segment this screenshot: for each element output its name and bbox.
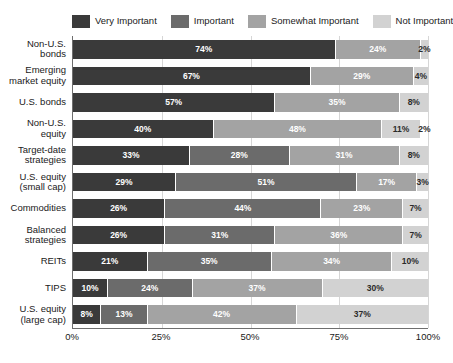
category-label: U.S. bonds [0, 97, 66, 108]
bar-segment[interactable]: 33% [73, 146, 190, 165]
x-axis-tick-label: 50% [240, 331, 259, 342]
bar-segment-value-label: 57% [165, 98, 182, 107]
legend-item[interactable]: Not Important [373, 15, 453, 28]
bar-row[interactable]: 33%28%31%8% [73, 146, 428, 165]
category-axis-labels: Non-U.S.bondsEmergingmarket equityU.S. b… [0, 36, 70, 328]
bar-segment[interactable]: 11% [382, 120, 421, 139]
bar-segment[interactable]: 51% [176, 173, 357, 192]
bar-segment[interactable]: 31% [290, 146, 400, 165]
bar-segment[interactable]: 35% [148, 252, 272, 271]
bar-segment[interactable]: 8% [73, 305, 101, 324]
legend-item[interactable]: Important [171, 15, 234, 28]
bar-segment[interactable]: 34% [272, 252, 393, 271]
bar-segment-value-label: 74% [195, 45, 212, 54]
bar-segment[interactable]: 36% [275, 226, 403, 245]
bar-segment[interactable]: 37% [193, 279, 323, 298]
bar-segment-value-label: 37% [249, 284, 266, 293]
bar-segment-value-label: 8% [408, 151, 420, 160]
bar-segment[interactable]: 40% [73, 120, 214, 139]
bar-segment-value-label: 21% [101, 257, 118, 266]
bar-row[interactable]: 21%35%34%10% [73, 252, 428, 271]
category-label: Commodities [0, 203, 66, 214]
bar-segment-value-label: 31% [211, 231, 228, 240]
bar-row[interactable]: 8%13%42%37% [73, 305, 428, 324]
bar-segment[interactable]: 23% [321, 199, 403, 218]
bar-segment[interactable]: 10% [73, 279, 108, 298]
bar-segment[interactable]: 17% [357, 173, 417, 192]
category-label: Emergingmarket equity [0, 65, 66, 86]
bar-segment[interactable]: 35% [275, 93, 399, 112]
bar-segment-value-label: 36% [330, 231, 347, 240]
bar-segment-value-label: 3% [417, 178, 429, 187]
bar-segment-value-label: 26% [110, 204, 127, 213]
bar-segment[interactable]: 7% [403, 226, 428, 245]
category-label: Non-U.S.equity [0, 118, 66, 139]
bar-segment[interactable]: 29% [311, 67, 414, 86]
bar-row[interactable]: 40%48%11%2% [73, 120, 428, 139]
bar-segment[interactable]: 13% [101, 305, 147, 324]
x-axis-tick-label: 75% [329, 331, 348, 342]
category-label-line: TIPS [0, 283, 66, 294]
bar-segment[interactable]: 3% [417, 173, 428, 192]
legend-item[interactable]: Somewhat Important [248, 15, 359, 28]
bar-segment[interactable]: 8% [400, 146, 428, 165]
bar-segment[interactable]: 28% [190, 146, 289, 165]
bar-segment[interactable]: 26% [73, 226, 165, 245]
x-axis-tick-labels: 0%25%50%75%100% [0, 331, 439, 347]
category-label-line: strategies [0, 235, 66, 246]
bar-row[interactable]: 10%24%37%30% [73, 279, 428, 298]
bar-segment-value-label: 13% [115, 310, 132, 319]
bar-segment[interactable]: 48% [214, 120, 383, 139]
legend-item[interactable]: Very Important [72, 15, 157, 28]
bar-segment[interactable]: 30% [323, 279, 428, 298]
category-label-line: REITs [0, 256, 66, 267]
bar-segment-value-label: 26% [110, 231, 127, 240]
bar-segment-value-label: 31% [336, 151, 353, 160]
bar-segment-value-label: 44% [234, 204, 251, 213]
bar-segment-value-label: 67% [183, 72, 200, 81]
bar-segment[interactable]: 42% [148, 305, 297, 324]
bar-row[interactable]: 74%24%2% [73, 40, 428, 59]
legend-swatch-very-important [72, 15, 90, 28]
bar-segment[interactable]: 26% [73, 199, 165, 218]
bar-segment-value-label: 35% [201, 257, 218, 266]
bar-segment[interactable]: 29% [73, 173, 176, 192]
bar-segment-value-label: 11% [393, 125, 410, 134]
bar-segment[interactable]: 74% [73, 40, 336, 59]
category-label-line: equity [0, 129, 66, 140]
bar-segment[interactable]: 24% [108, 279, 192, 298]
bar-segment[interactable]: 67% [73, 67, 311, 86]
bar-segment[interactable]: 4% [414, 67, 428, 86]
bar-segment[interactable]: 37% [297, 305, 428, 324]
bar-segment[interactable]: 44% [165, 199, 321, 218]
category-label: U.S. equity(large cap) [0, 304, 66, 325]
bar-segment-value-label: 4% [415, 72, 427, 81]
bar-segment[interactable]: 8% [400, 93, 428, 112]
category-label-line: strategies [0, 155, 66, 166]
bar-row[interactable]: 26%44%23%7% [73, 199, 428, 218]
bar-segment-value-label: 37% [354, 310, 371, 319]
bar-segment[interactable]: 2% [421, 120, 428, 139]
category-label: Non-U.S.bonds [0, 39, 66, 60]
bar-segment[interactable]: 7% [403, 199, 428, 218]
category-label-line: Commodities [0, 203, 66, 214]
bar-segment-value-label: 10% [82, 284, 99, 293]
bar-segment[interactable]: 10% [392, 252, 428, 271]
category-label: U.S. equity(small cap) [0, 172, 66, 193]
bar-segment-value-label: 48% [289, 125, 306, 134]
bar-segment-value-label: 34% [323, 257, 340, 266]
bar-segment[interactable]: 2% [421, 40, 428, 59]
bar-row[interactable]: 29%51%17%3% [73, 173, 428, 192]
bar-row[interactable]: 67%29%4% [73, 67, 428, 86]
bar-row[interactable]: 26%31%36%7% [73, 226, 428, 245]
category-label: Balancedstrategies [0, 225, 66, 246]
bar-row[interactable]: 57%35%8% [73, 93, 428, 112]
bar-segment[interactable]: 57% [73, 93, 275, 112]
bar-segment[interactable]: 24% [336, 40, 421, 59]
bar-segment-value-label: 2% [418, 125, 430, 134]
bar-segment-value-label: 30% [367, 284, 384, 293]
bar-segment[interactable]: 31% [165, 226, 275, 245]
category-label-line: (small cap) [0, 182, 66, 193]
bar-segment[interactable]: 21% [73, 252, 148, 271]
